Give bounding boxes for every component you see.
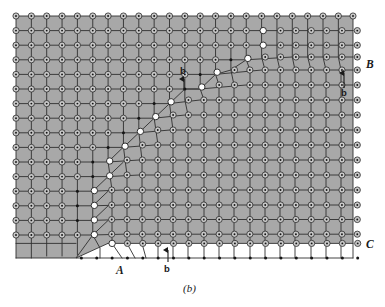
atom-node-center (61, 190, 63, 192)
atom-node-center (249, 242, 251, 244)
dislocation-core-node (91, 187, 97, 193)
atom-node-center (264, 114, 266, 116)
half-plane-dot (233, 257, 236, 260)
atom-node-center (326, 84, 328, 86)
atom-node-center (30, 44, 32, 46)
dislocation-core-node (91, 202, 97, 208)
atom-node-center (326, 56, 328, 58)
atom-node-center (46, 161, 48, 163)
atom-node-center (30, 117, 32, 119)
atom-node-center (157, 174, 159, 176)
dislocation-core-node (260, 42, 266, 48)
atom-node-center (92, 73, 94, 75)
atom-node-center (265, 242, 267, 244)
atom-node-center (310, 129, 312, 131)
atom-node-center (153, 44, 155, 46)
atom-node-center (188, 242, 190, 244)
atom-node-center (295, 174, 297, 176)
atom-node-center (76, 59, 78, 61)
atom-node-center (341, 159, 343, 161)
atom-node-center (15, 117, 17, 119)
atom-node-center (61, 176, 63, 178)
atom-node-center (326, 44, 328, 46)
atom-node-center (138, 30, 140, 32)
atom-node-center (326, 144, 328, 146)
atom-node-center (249, 99, 251, 101)
atom-node-center (15, 73, 17, 75)
atom-node-center (341, 242, 343, 244)
atom-node-center (264, 144, 266, 146)
atom-node-center (15, 234, 17, 236)
atom-node-center (157, 189, 159, 191)
half-plane-dot (107, 146, 110, 149)
half-plane-dot (310, 257, 313, 260)
atom-node-center (123, 88, 125, 90)
atom-node-center (30, 59, 32, 61)
atom-node-center (76, 234, 78, 236)
atom-node-center (172, 189, 174, 191)
atom-node-center (173, 242, 175, 244)
atom-node-center (218, 99, 220, 101)
atom-node-center (157, 204, 159, 206)
atom-node-center (356, 114, 358, 116)
atom-node-center (188, 159, 190, 161)
atom-node-center (249, 219, 251, 221)
atom-node-center (356, 69, 358, 71)
atom-node-center (234, 189, 236, 191)
atom-node-center (295, 30, 297, 32)
atom-node-center (46, 30, 48, 32)
half-plane-dot (91, 161, 94, 164)
atom-node-center (107, 73, 109, 75)
atom-node-center (92, 59, 94, 61)
atom-node-center (249, 144, 251, 146)
atom-node-center (356, 144, 358, 146)
half-plane-dot (141, 257, 144, 260)
atom-node-center (234, 84, 236, 86)
dislocation-core-node (107, 158, 113, 164)
atom-node-center (280, 204, 282, 206)
atom-node-center (215, 59, 217, 61)
atom-node-center (15, 190, 17, 192)
atom-node-center (356, 44, 358, 46)
atom-node-center (234, 99, 236, 101)
atom-node-center (157, 159, 159, 161)
atom-node-center (141, 174, 143, 176)
dislocation-core-node (245, 55, 251, 61)
atom-node-center (30, 205, 32, 207)
label-A: A (116, 265, 124, 277)
atom-node-center (76, 146, 78, 148)
atom-node-center (310, 99, 312, 101)
atom-node-center (280, 242, 282, 244)
atom-node-center (230, 30, 232, 32)
atom-node-center (141, 189, 143, 191)
atom-node-center (218, 84, 220, 86)
dislocation-core-node (122, 143, 128, 149)
atom-node-center (218, 174, 220, 176)
atom-node-center (107, 59, 109, 61)
atom-node-center (92, 132, 94, 134)
lattice-diagram (0, 0, 385, 307)
dislocation-core-node (153, 113, 159, 119)
dislocation-core-node (91, 217, 97, 223)
atom-node-center (46, 146, 48, 148)
atom-node-center (326, 114, 328, 116)
atom-node-center (184, 30, 186, 32)
atom-node-center (169, 59, 171, 61)
dislocation-core-node (91, 231, 97, 237)
atom-node-center (310, 219, 312, 221)
atom-node-center (264, 204, 266, 206)
atom-node-center (234, 233, 236, 235)
atom-node-center (111, 233, 113, 235)
atom-node-center (188, 204, 190, 206)
atom-node-center (61, 146, 63, 148)
atom-node-center (234, 129, 236, 131)
atom-node-center (76, 132, 78, 134)
atom-node-center (46, 117, 48, 119)
atom-node-center (280, 114, 282, 116)
atom-node-center (203, 233, 205, 235)
atom-node-center (295, 129, 297, 131)
atom-node-center (92, 44, 94, 46)
atom-node-center (326, 99, 328, 101)
atom-node-center (249, 204, 251, 206)
atom-node-center (188, 233, 190, 235)
